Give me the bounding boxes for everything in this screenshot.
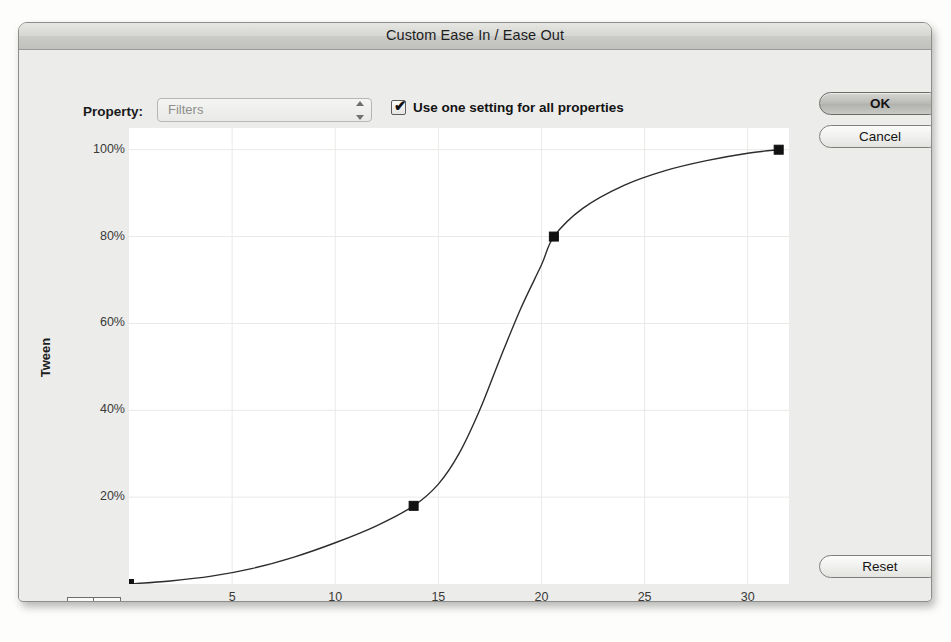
- use-one-setting-checkbox-row[interactable]: ✔ Use one setting for all properties: [391, 100, 624, 115]
- use-one-setting-label: Use one setting for all properties: [413, 100, 624, 115]
- property-label: Property:: [83, 104, 143, 119]
- chevron-up-icon: [356, 101, 364, 106]
- dialog-titlebar: Custom Ease In / Ease Out: [19, 23, 931, 50]
- play-button[interactable]: [94, 597, 121, 602]
- ease-curve-svg: [129, 128, 789, 584]
- property-select[interactable]: Filters: [157, 98, 372, 122]
- y-axis-tick-labels: 20%40%60%80%100%: [65, 128, 125, 584]
- control-point-handle-2: [549, 232, 558, 241]
- control-points: [129, 145, 783, 584]
- property-select-value: Filters: [168, 102, 203, 117]
- stop-button[interactable]: [67, 597, 94, 602]
- y-tick-label: 80%: [79, 229, 125, 243]
- property-stepper[interactable]: [353, 101, 366, 120]
- chevron-down-icon: [356, 115, 364, 120]
- grid-lines: [129, 128, 789, 584]
- checkmark-icon: ✔: [394, 98, 407, 113]
- dialog-body: Property: Filters ✔ Use one setting for …: [19, 50, 931, 600]
- x-tick-label: 15: [418, 590, 458, 602]
- y-tick-label: 100%: [79, 142, 125, 156]
- custom-ease-dialog: Custom Ease In / Ease Out Property: Filt…: [18, 22, 932, 602]
- x-tick-label: 20: [522, 590, 562, 602]
- x-tick-label: 10: [315, 590, 355, 602]
- ease-curve-plot[interactable]: [129, 128, 789, 584]
- y-axis-title: Tween: [38, 318, 53, 398]
- x-axis-tick-labels: 51015202530: [129, 590, 789, 602]
- control-point-handle-0: [129, 580, 134, 585]
- ease-curve-path: [129, 150, 779, 584]
- x-tick-label: 30: [728, 590, 768, 602]
- control-point-handle-3: [774, 145, 783, 154]
- x-tick-label: 5: [212, 590, 252, 602]
- page-background: Custom Ease In / Ease Out Property: Filt…: [0, 0, 951, 642]
- reset-button[interactable]: Reset: [819, 555, 932, 578]
- control-point-handle-1: [409, 501, 418, 510]
- y-tick-label: 40%: [79, 402, 125, 416]
- y-tick-label: 20%: [79, 489, 125, 503]
- y-tick-label: 60%: [79, 315, 125, 329]
- cancel-button[interactable]: Cancel: [819, 125, 932, 148]
- dialog-title: Custom Ease In / Ease Out: [19, 27, 931, 43]
- x-tick-label: 25: [625, 590, 665, 602]
- transport-controls: [67, 597, 121, 602]
- use-one-setting-checkbox[interactable]: ✔: [391, 100, 406, 115]
- ok-button[interactable]: OK: [819, 92, 932, 115]
